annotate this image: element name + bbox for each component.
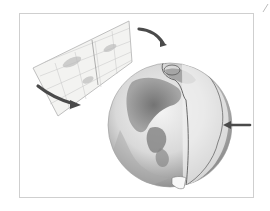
corner-mark [263,4,268,12]
globe-projection-illustration [0,0,270,211]
arrow-top [139,29,167,47]
globe [108,62,232,190]
